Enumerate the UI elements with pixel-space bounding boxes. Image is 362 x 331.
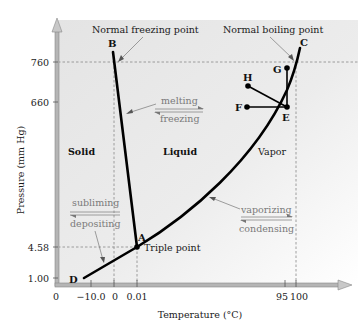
region-liquid: Liquid <box>163 146 197 157</box>
phase-diagram: 760 660 4.58 1.00 0 −10.0 0 0.01 95 100 … <box>0 0 362 331</box>
y-axis-label: Pressure (mm Hg) <box>15 126 26 214</box>
label-d: D <box>69 274 78 285</box>
normal-boiling-label: Normal boiling point <box>223 24 323 35</box>
label-g: G <box>273 64 282 75</box>
x-tick-95: 95 <box>276 291 288 302</box>
label-c: C <box>300 37 308 48</box>
region-solid: Solid <box>68 146 95 157</box>
x-tick-minus10: −10.0 <box>76 291 105 302</box>
subliming-label: subliming <box>72 197 119 208</box>
triple-point-label: Triple point <box>144 242 201 253</box>
point-a <box>134 244 140 250</box>
y-tick-760: 760 <box>31 57 49 68</box>
label-e: E <box>282 112 290 123</box>
plot-background <box>58 20 358 284</box>
melting-label: melting <box>161 95 198 106</box>
label-b: B <box>108 38 116 49</box>
x-tick-0-01: 0.01 <box>126 291 147 302</box>
y-tick-660: 660 <box>31 97 49 108</box>
point-f <box>244 104 250 110</box>
point-g <box>284 65 290 71</box>
freezing-label: freezing <box>160 113 200 124</box>
region-vapor: Vapor <box>257 146 286 157</box>
label-h: H <box>243 72 252 83</box>
x-tick-100: 100 <box>290 291 308 302</box>
depositing-label: depositing <box>70 218 120 229</box>
point-h <box>245 83 251 89</box>
vaporizing-label: vaporizing <box>240 204 292 215</box>
label-f: F <box>235 102 242 113</box>
x-axis-label: Temperature (°C) <box>158 309 243 320</box>
y-tick-4-58: 4.58 <box>28 242 49 253</box>
x-tick-origin: 0 <box>53 291 59 302</box>
normal-freezing-label: Normal freezing point <box>92 24 199 35</box>
condensing-label: condensing <box>239 223 294 234</box>
point-e <box>284 104 290 110</box>
x-tick-0: 0 <box>112 291 118 302</box>
y-tick-1-00: 1.00 <box>28 273 49 284</box>
